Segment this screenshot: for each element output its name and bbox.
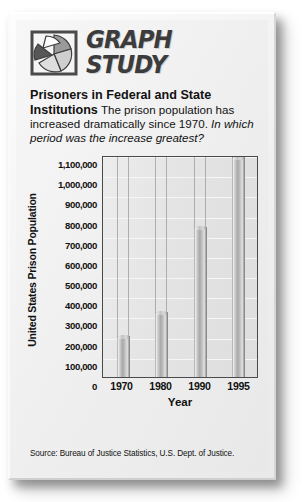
bar-chart: United States Prison Population 1,100,00…: [26, 148, 260, 430]
bar-1995[interactable]: [232, 157, 245, 377]
x-axis-tick-1990: 1990: [188, 380, 210, 392]
logo-line-study: STUDY: [86, 52, 172, 77]
x-axis-tick-1970: 1970: [110, 380, 132, 392]
bar-1990[interactable]: [194, 227, 207, 377]
logo-line-graph: GRAPH: [86, 27, 172, 52]
source-note: Source: Bureau of Justice Statistics, U.…: [30, 449, 258, 458]
plot-area: [102, 156, 258, 378]
y-axis-tick: 700,000: [65, 239, 97, 250]
graph-study-card: GRAPH STUDY Prisoners in Federal and Sta…: [8, 12, 276, 480]
y-axis-tick: 800,000: [65, 219, 97, 230]
y-axis-tick: 500,000: [65, 280, 97, 291]
y-axis-tick: 100,000: [65, 360, 97, 371]
x-axis-tick-1980: 1980: [149, 380, 171, 392]
pie-chart-icon: [30, 30, 82, 80]
y-axis-tick-labels: 1,100,0001,000,000900,000800,000700,0006…: [38, 156, 100, 384]
y-axis-tick: 1,100,000: [58, 159, 97, 170]
logo-wordmark: GRAPH STUDY: [86, 27, 179, 77]
headline-block: Prisoners in Federal and State Instituti…: [30, 88, 256, 144]
card-inner-panel: GRAPH STUDY Prisoners in Federal and Sta…: [16, 20, 268, 472]
y-axis-tick: 300,000: [65, 320, 97, 331]
y-axis-tick: 400,000: [65, 300, 97, 311]
bar-1970[interactable]: [117, 336, 130, 377]
x-axis-tick-1995: 1995: [227, 380, 249, 392]
y-axis-tick: 200,000: [65, 340, 97, 351]
y-axis-tick: 0: [92, 381, 97, 392]
x-axis-title: Year: [102, 396, 258, 408]
y-axis-tick: 900,000: [65, 199, 97, 210]
y-axis-title-text: United States Prison Population: [26, 193, 38, 347]
y-axis-tick: 600,000: [65, 259, 97, 270]
y-axis-tick: 1,000,000: [58, 179, 97, 190]
x-axis-tick-labels: 1970198019901995: [102, 380, 258, 394]
bar-1980[interactable]: [155, 312, 168, 377]
